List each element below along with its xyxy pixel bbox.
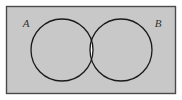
set-b-label: B	[155, 17, 162, 29]
set-a-label: A	[22, 17, 30, 29]
venn-diagram-canvas: A B	[0, 0, 182, 100]
venn-diagram-figure: A B	[0, 0, 182, 100]
